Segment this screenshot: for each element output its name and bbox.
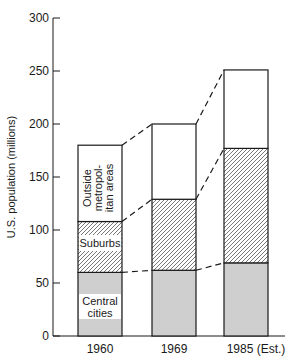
stacked-bar-chart: 050100150200250300 U.S. population (mill… xyxy=(0,0,298,360)
connector-line xyxy=(196,148,224,199)
x-axis-labels: 196019691985 (Est.) xyxy=(87,342,286,356)
x-tick-label: 1969 xyxy=(161,342,188,356)
connector-line xyxy=(196,70,224,124)
y-axis-title: U.S. population (millions) xyxy=(5,116,17,238)
segment-outside-metropolitan-areas xyxy=(152,124,196,199)
bar-1969 xyxy=(152,124,196,336)
segment-central-cities xyxy=(224,263,268,336)
x-tick-label: 1985 (Est.) xyxy=(227,342,286,356)
central-cities-label: cities xyxy=(87,307,113,319)
y-tick-label: 150 xyxy=(29,170,49,184)
outside-metro-label: itan areas xyxy=(103,163,115,212)
connector-line xyxy=(122,270,152,272)
segment-central-cities xyxy=(152,270,196,336)
central-cities-label: Central xyxy=(82,295,117,307)
segment-outside-metropolitan-areas xyxy=(224,70,268,148)
y-tick-label: 200 xyxy=(29,117,49,131)
segment-suburbs xyxy=(152,199,196,270)
segment-suburbs xyxy=(224,148,268,262)
y-tick-label: 250 xyxy=(29,64,49,78)
y-tick-label: 50 xyxy=(36,276,50,290)
y-axis: 050100150200250300 xyxy=(29,11,60,343)
inline-segment-labels: CentralcitiesSuburbsOutsidemetropol-itan… xyxy=(79,163,121,319)
y-tick-label: 100 xyxy=(29,223,49,237)
x-tick-label: 1960 xyxy=(87,342,114,356)
connector-line xyxy=(122,124,152,145)
connector-line xyxy=(122,199,152,221)
y-tick-label: 0 xyxy=(42,329,49,343)
bar-1985 xyxy=(224,70,268,336)
suburbs-label: Suburbs xyxy=(80,237,121,249)
connector-line xyxy=(196,263,224,270)
y-tick-label: 300 xyxy=(29,11,49,25)
